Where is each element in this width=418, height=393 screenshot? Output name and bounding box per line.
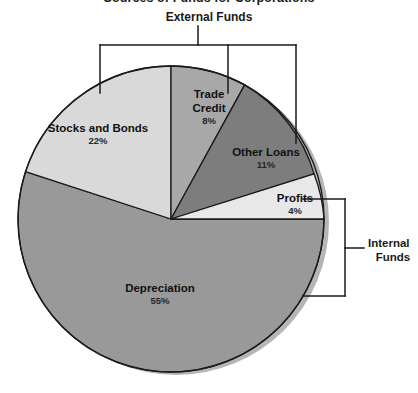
- slice-label-stocks-and-bonds: Stocks and Bonds 22%: [34, 122, 162, 147]
- slice-label-profits: Profits 4%: [262, 192, 328, 217]
- group-label-internal-line2: Funds: [368, 250, 418, 264]
- slice-label-depreciation: Depreciation 55%: [100, 282, 220, 307]
- slice-label-name-line2: Credit: [178, 102, 240, 116]
- group-label-external-funds: External Funds: [139, 10, 279, 24]
- pie-chart-graphic: [0, 0, 418, 393]
- slice-label-trade-credit: Trade Credit 8%: [178, 88, 240, 127]
- slice-label-name: Stocks and Bonds: [34, 122, 162, 135]
- group-label-internal-funds: Internal Funds: [368, 236, 418, 265]
- slice-label-name: Profits: [262, 192, 328, 205]
- slice-label-pct: 55%: [100, 296, 220, 307]
- slice-label-pct: 11%: [218, 160, 314, 171]
- slice-label-name-line1: Trade: [178, 88, 240, 102]
- slice-label-pct: 4%: [262, 206, 328, 217]
- slice-label-other-loans: Other Loans 11%: [218, 146, 314, 171]
- slice-label-name: Other Loans: [218, 146, 314, 159]
- slice-label-pct: 22%: [34, 136, 162, 147]
- group-label-internal-line1: Internal: [368, 236, 418, 250]
- slice-label-pct: 8%: [178, 116, 240, 127]
- slice-label-name: Depreciation: [100, 282, 220, 295]
- figure-canvas: Sources of Funds for Corporations: [0, 0, 418, 393]
